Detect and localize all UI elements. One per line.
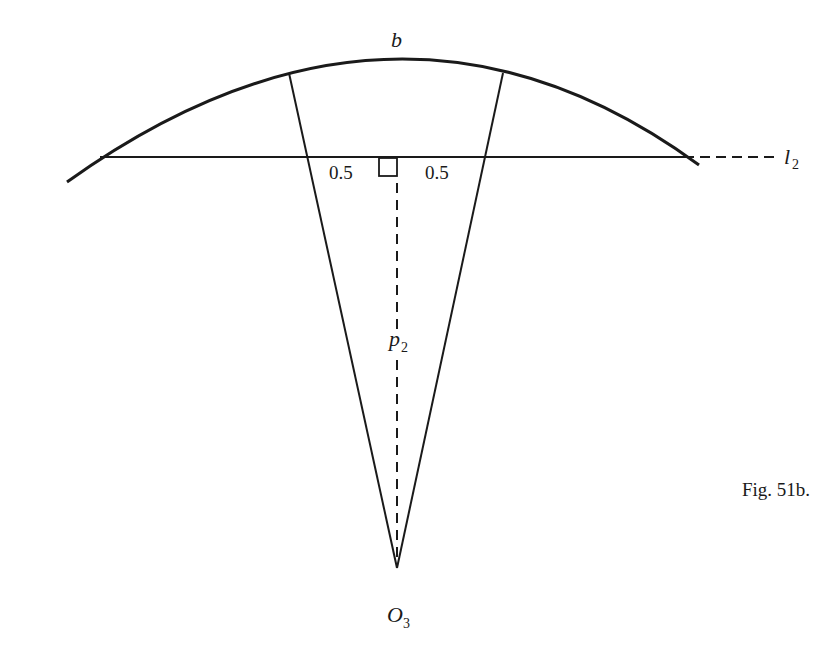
label-line-l: l — [784, 144, 790, 169]
radius-left — [289, 73, 397, 568]
arc-b — [67, 59, 699, 182]
right-angle-marker — [379, 158, 397, 176]
label-arc-b: b — [391, 27, 402, 52]
geometry-diagram: b l 2 0.5 0.5 p 2 O 3 Fig. 51b. — [0, 0, 838, 669]
label-perpendicular-sub: 2 — [401, 340, 408, 355]
label-center-o: O — [387, 602, 403, 627]
label-center-sub: 3 — [403, 616, 410, 631]
label-right-half: 0.5 — [425, 162, 449, 183]
label-perpendicular-p: p — [387, 326, 400, 351]
radius-right — [397, 73, 503, 568]
label-left-half: 0.5 — [329, 162, 353, 183]
label-line-sub: 2 — [792, 157, 799, 172]
figure-caption: Fig. 51b. — [742, 479, 810, 500]
